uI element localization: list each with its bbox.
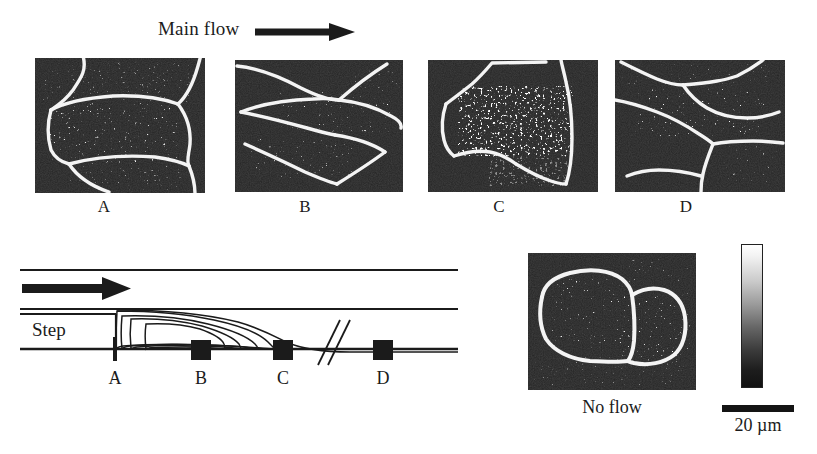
double-slash-break-icon <box>318 320 350 365</box>
micrograph-panel-d-label: D <box>656 198 716 215</box>
micrograph-panel-no-flow[interactable] <box>528 253 696 390</box>
flow-arrow-icon <box>22 277 131 300</box>
micrograph-panel-c-label: C <box>469 198 529 215</box>
station-marker-c[interactable] <box>273 340 293 360</box>
scale-bar-label: 20 µm <box>707 416 809 434</box>
step-label: Step <box>32 319 66 340</box>
micrograph-panel-a-label: A <box>74 198 134 215</box>
step-flow-schematic: Step A B C D <box>10 248 460 398</box>
station-label-b: B <box>195 368 207 388</box>
main-flow-label: Main flow <box>158 19 239 38</box>
grayscale-colorbar-icon <box>741 244 763 388</box>
scale-bar <box>722 405 794 412</box>
station-marker-a[interactable] <box>113 337 117 361</box>
micrograph-panel-c[interactable] <box>428 60 598 192</box>
micrograph-panel-d[interactable] <box>615 60 785 192</box>
station-marker-d[interactable] <box>373 340 393 360</box>
figure-canvas: Main flow <box>0 0 817 454</box>
micrograph-panel-a[interactable] <box>35 58 205 193</box>
station-label-a: A <box>109 368 122 388</box>
station-marker-b[interactable] <box>191 340 211 360</box>
right-arrow-icon <box>255 23 355 41</box>
station-label-c: C <box>277 368 289 388</box>
micrograph-panel-b-label: B <box>275 198 335 215</box>
micrograph-panel-no-flow-label: No flow <box>528 398 696 416</box>
micrograph-panel-b[interactable] <box>235 60 403 192</box>
station-label-d: D <box>377 368 390 388</box>
